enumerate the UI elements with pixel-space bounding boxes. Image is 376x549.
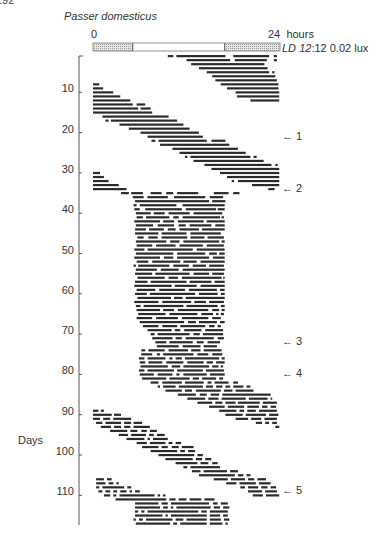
activity-segment bbox=[148, 438, 150, 440]
activity-segment bbox=[185, 390, 192, 392]
activity-segment bbox=[197, 454, 202, 456]
activity-segment bbox=[135, 228, 146, 230]
activity-segment bbox=[137, 442, 147, 444]
activity-segment bbox=[224, 518, 229, 520]
activity-segment bbox=[228, 406, 244, 408]
activity-segment bbox=[176, 506, 210, 508]
activity-segment bbox=[208, 381, 212, 383]
activity-segment bbox=[209, 253, 217, 255]
activity-segment bbox=[235, 59, 267, 61]
activity-segment bbox=[201, 510, 206, 512]
activity-segment bbox=[179, 498, 187, 500]
activity-segment bbox=[221, 313, 224, 315]
activity-segment bbox=[208, 236, 224, 238]
activity-segment bbox=[213, 257, 225, 259]
activity-segment bbox=[207, 220, 225, 222]
activity-segment bbox=[265, 490, 277, 492]
activity-segment bbox=[272, 422, 277, 424]
activity-segment bbox=[176, 442, 181, 444]
activity-segment bbox=[211, 140, 225, 142]
activity-segment bbox=[183, 216, 220, 218]
activity-segment bbox=[136, 212, 151, 214]
activity-segment bbox=[116, 482, 118, 484]
activity-segment bbox=[130, 490, 132, 492]
activity-segment bbox=[182, 446, 194, 448]
activity-segment bbox=[236, 390, 254, 392]
activity-segment bbox=[134, 301, 158, 303]
activity-segment bbox=[96, 482, 105, 484]
activity-segment bbox=[121, 192, 129, 194]
activity-segment bbox=[93, 95, 120, 97]
activity-segment bbox=[171, 506, 173, 508]
activity-segment bbox=[135, 514, 162, 516]
activity-segment bbox=[139, 518, 143, 520]
activity-segment bbox=[135, 232, 158, 234]
activity-segment bbox=[142, 446, 158, 448]
activity-segment bbox=[222, 240, 225, 242]
activity-segment bbox=[114, 426, 121, 428]
activity-segment bbox=[183, 365, 209, 367]
activity-segment bbox=[199, 474, 235, 476]
activity-segment bbox=[225, 523, 227, 525]
activity-segment bbox=[221, 365, 223, 367]
activity-segment bbox=[134, 285, 171, 287]
activity-segment bbox=[199, 67, 268, 69]
activity-segment bbox=[156, 317, 178, 319]
activity-segment bbox=[139, 369, 144, 371]
activity-segment bbox=[231, 478, 245, 480]
activity-segment bbox=[135, 510, 138, 512]
activity-segment bbox=[216, 361, 225, 363]
activity-segment bbox=[149, 228, 164, 230]
activity-segment bbox=[176, 462, 198, 464]
activity-segment bbox=[93, 414, 112, 416]
activity-segment bbox=[169, 498, 175, 500]
activity-segment bbox=[169, 277, 178, 279]
activity-segment bbox=[93, 91, 113, 93]
activity-segment bbox=[148, 349, 164, 351]
activity-segment bbox=[219, 377, 223, 379]
activity-segment bbox=[199, 293, 218, 295]
activity-segment bbox=[193, 265, 206, 267]
activity-segment bbox=[172, 446, 179, 448]
activity-segment bbox=[204, 498, 214, 500]
activity-segment bbox=[192, 470, 201, 472]
activity-segment bbox=[221, 83, 279, 85]
activity-segment bbox=[238, 402, 260, 404]
y-axis-line bbox=[79, 56, 83, 525]
activity-segment bbox=[119, 494, 154, 496]
activity-segment bbox=[261, 486, 267, 488]
activity-segment bbox=[209, 325, 214, 327]
activity-segment bbox=[148, 136, 203, 138]
activity-segment bbox=[222, 357, 225, 359]
activity-segment bbox=[162, 502, 168, 504]
activity-segment bbox=[220, 321, 225, 323]
activity-segment bbox=[212, 462, 217, 464]
activity-segment bbox=[268, 188, 274, 190]
activity-segment bbox=[238, 180, 279, 182]
activity-segment bbox=[96, 478, 104, 480]
activity-segment bbox=[162, 301, 191, 303]
activity-segment bbox=[197, 402, 212, 404]
activity-segment bbox=[201, 313, 213, 315]
activity-segment bbox=[114, 414, 121, 416]
activity-segment bbox=[93, 184, 119, 186]
activity-segment bbox=[248, 478, 254, 480]
activity-segment bbox=[93, 107, 138, 109]
activity-segment bbox=[157, 345, 179, 347]
activity-segment bbox=[271, 486, 276, 488]
activity-segment bbox=[237, 95, 279, 97]
activity-segment bbox=[162, 236, 188, 238]
activity-segment bbox=[148, 248, 193, 250]
activity-segment bbox=[93, 180, 109, 182]
activity-segment bbox=[272, 71, 274, 73]
activity-segment bbox=[136, 253, 173, 255]
activity-segment bbox=[155, 341, 166, 343]
activity-segment bbox=[209, 265, 224, 267]
activity-segment bbox=[136, 523, 170, 525]
activity-segment bbox=[236, 91, 280, 93]
activity-segment bbox=[169, 442, 173, 444]
activity-segment bbox=[169, 377, 189, 379]
activity-segment bbox=[180, 325, 205, 327]
activity-segment bbox=[177, 369, 203, 371]
activity-segment bbox=[105, 422, 121, 424]
